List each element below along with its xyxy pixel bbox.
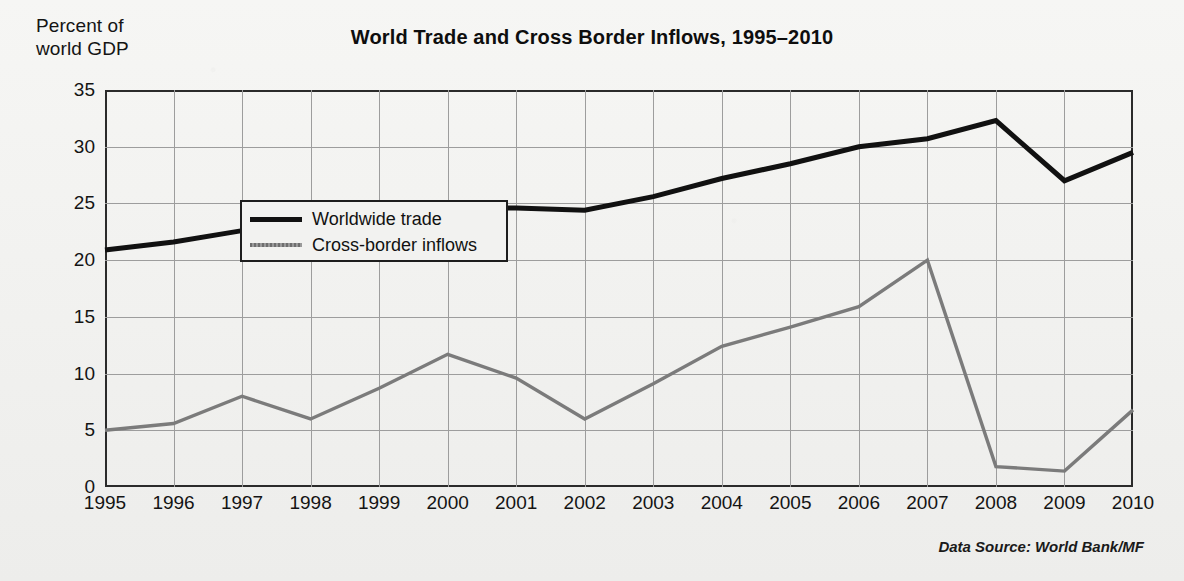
x-tick-label: 2005	[769, 492, 811, 514]
y-tick-label: 25	[33, 192, 95, 214]
x-tick-label: 1999	[358, 492, 400, 514]
x-tick-label: 2007	[906, 492, 948, 514]
y-tick-label: 35	[33, 79, 95, 101]
x-tick-label: 2010	[1112, 492, 1154, 514]
chart-legend: Worldwide trade Cross-border inflows	[240, 200, 508, 262]
legend-label: Cross-border inflows	[312, 235, 477, 255]
x-tick-label: 1995	[84, 492, 126, 514]
chart-title: World Trade and Cross Border Inflows, 19…	[0, 26, 1184, 49]
x-tick-label: 2004	[701, 492, 743, 514]
legend-entry-worldwide-trade: Worldwide trade	[250, 206, 498, 232]
x-tick-label: 2009	[1043, 492, 1085, 514]
y-tick-label: 15	[33, 306, 95, 328]
y-axis-tick-labels: 05101520253035	[33, 90, 95, 487]
x-tick-label: 2006	[838, 492, 880, 514]
x-axis-tick-labels: 1995199619971998199920002001200220032004…	[105, 492, 1133, 520]
x-tick-label: 2002	[564, 492, 606, 514]
series-lines	[105, 90, 1133, 487]
data-source-note: Data Source: World Bank/MF	[938, 538, 1144, 555]
legend-swatch-line-icon	[250, 243, 302, 247]
x-tick-label: 1997	[221, 492, 263, 514]
y-tick-label: 20	[33, 249, 95, 271]
x-tick-label: 2001	[495, 492, 537, 514]
x-tick-label: 2008	[975, 492, 1017, 514]
legend-entry-cross-border-inflows: Cross-border inflows	[250, 232, 498, 258]
x-tick-label: 1996	[152, 492, 194, 514]
y-tick-label: 5	[33, 419, 95, 441]
plot-area: Worldwide trade Cross-border inflows	[105, 90, 1133, 487]
y-tick-label: 30	[33, 136, 95, 158]
x-tick-label: 2003	[632, 492, 674, 514]
x-tick-label: 1998	[289, 492, 331, 514]
series-line-cross-border-inflows	[105, 260, 1133, 471]
legend-swatch-line-icon	[250, 217, 302, 222]
legend-label: Worldwide trade	[312, 209, 442, 229]
y-tick-label: 10	[33, 363, 95, 385]
x-tick-label: 2000	[427, 492, 469, 514]
